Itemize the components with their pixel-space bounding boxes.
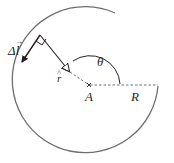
radius-label-r: R <box>130 89 139 104</box>
circular-path-arc <box>12 7 158 153</box>
center-label-a: A <box>84 89 93 104</box>
delta-l-vector-accent: → <box>15 37 23 46</box>
theta-label: θ <box>97 54 104 69</box>
diagram-canvas: Δl → r ^ θ A R <box>0 0 174 163</box>
radial-dashed-line <box>70 72 89 85</box>
radial-solid-line <box>40 35 69 71</box>
